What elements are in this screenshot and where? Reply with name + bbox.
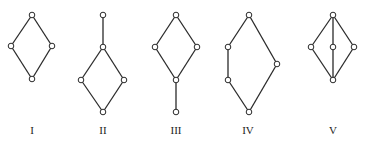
lattice-node	[225, 44, 231, 50]
lattice-edge	[155, 15, 176, 47]
diagram-label-I: I	[30, 124, 34, 136]
lattice-node	[246, 109, 252, 115]
lattice-node	[351, 44, 357, 50]
lattice-node	[78, 77, 84, 83]
lattice-node	[173, 109, 179, 115]
lattice-node	[152, 44, 158, 50]
lattice-node	[173, 12, 179, 18]
lattice-diagram-IV	[225, 12, 280, 115]
lattice-edge	[155, 47, 176, 80]
lattice-edge	[176, 15, 197, 47]
lattice-node	[308, 44, 314, 50]
lattice-node	[100, 109, 106, 115]
lattice-diagram-II	[78, 12, 127, 115]
lattice-node	[330, 77, 336, 83]
lattice-edge	[103, 80, 124, 112]
lattice-edge	[81, 80, 103, 112]
lattice-node	[100, 12, 106, 18]
lattice-diagram-V	[308, 12, 357, 83]
lattice-edge	[228, 15, 249, 47]
lattice-node	[274, 61, 280, 67]
lattice-edge	[32, 15, 52, 46]
lattice-edge	[333, 47, 354, 80]
lattice-diagrams-figure: I II III IV V	[0, 0, 368, 144]
diagram-label-II: II	[99, 124, 107, 136]
lattice-edge	[11, 46, 32, 79]
diagram-label-V: V	[329, 124, 337, 136]
lattice-edge	[249, 64, 277, 112]
lattice-edge	[32, 46, 52, 79]
diagram-label-III: III	[171, 124, 182, 136]
lattice-node	[49, 43, 55, 49]
lattice-edge	[103, 47, 124, 80]
diagram-label-IV: IV	[242, 124, 254, 136]
lattice-edge	[228, 80, 249, 112]
lattice-node	[100, 44, 106, 50]
lattice-edge	[311, 15, 333, 47]
lattice-node	[194, 44, 200, 50]
lattice-edge	[333, 15, 354, 47]
lattice-diagram-III	[152, 12, 200, 115]
lattice-node	[121, 77, 127, 83]
lattice-node	[330, 44, 336, 50]
lattice-edge	[311, 47, 333, 80]
lattice-diagram-I	[8, 12, 55, 82]
lattice-edge	[249, 15, 277, 64]
lattice-node	[29, 76, 35, 82]
lattice-edge	[176, 47, 197, 80]
lattice-node	[246, 12, 252, 18]
lattice-node	[225, 77, 231, 83]
lattice-node	[29, 12, 35, 18]
lattice-node	[330, 12, 336, 18]
lattice-edge	[81, 47, 103, 80]
lattice-node	[8, 43, 14, 49]
lattice-edge	[11, 15, 32, 46]
lattice-node	[173, 77, 179, 83]
